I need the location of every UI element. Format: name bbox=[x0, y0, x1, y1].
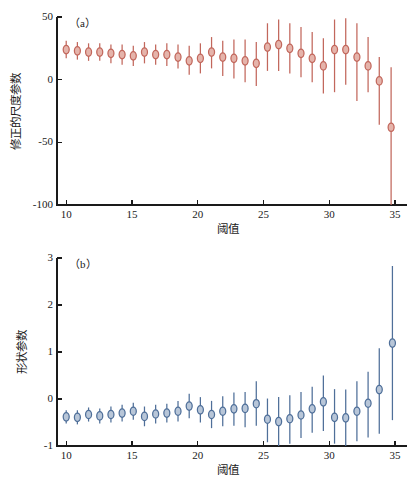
data-point bbox=[242, 40, 248, 83]
x-tick-label: 20 bbox=[192, 208, 204, 220]
data-marker bbox=[320, 62, 326, 70]
plot-area-panel-b: 3210-1101520253035阈值形状参数（b） bbox=[0, 241, 417, 482]
data-point bbox=[130, 403, 136, 420]
data-marker bbox=[74, 47, 80, 55]
data-marker bbox=[220, 53, 226, 61]
data-point bbox=[153, 45, 159, 65]
data-point bbox=[86, 407, 92, 421]
data-point bbox=[164, 43, 170, 66]
data-point bbox=[298, 392, 304, 438]
y-tick-label: 3 bbox=[48, 251, 54, 263]
data-marker bbox=[287, 415, 293, 423]
data-point bbox=[332, 20, 338, 93]
x-tick-label: 25 bbox=[258, 449, 270, 461]
data-point bbox=[141, 42, 147, 63]
data-marker bbox=[197, 406, 203, 414]
data-point bbox=[264, 399, 270, 443]
data-point bbox=[175, 401, 181, 422]
data-marker bbox=[141, 412, 147, 420]
data-marker bbox=[119, 50, 125, 58]
data-marker bbox=[186, 57, 192, 65]
data-marker bbox=[63, 45, 69, 53]
y-tick-label: 1 bbox=[48, 345, 54, 357]
data-point bbox=[343, 18, 349, 84]
axis-spines bbox=[57, 17, 407, 205]
data-marker bbox=[86, 410, 92, 418]
data-marker bbox=[332, 45, 338, 53]
x-tick-label: 25 bbox=[258, 208, 270, 220]
data-point bbox=[164, 404, 170, 423]
data-point bbox=[153, 405, 159, 424]
data-marker bbox=[209, 48, 215, 56]
data-marker bbox=[354, 53, 360, 61]
data-point bbox=[389, 266, 395, 420]
data-point bbox=[320, 376, 326, 431]
y-tick-label: -1 bbox=[44, 439, 53, 451]
data-marker bbox=[354, 407, 360, 415]
data-point bbox=[86, 43, 92, 61]
data-point bbox=[298, 27, 304, 77]
data-marker bbox=[242, 404, 248, 412]
data-marker bbox=[220, 407, 226, 415]
data-point bbox=[253, 42, 259, 86]
data-point bbox=[332, 389, 338, 444]
data-marker bbox=[74, 413, 80, 421]
y-tick-label: 50 bbox=[42, 10, 54, 22]
data-marker bbox=[108, 410, 114, 418]
data-point bbox=[74, 42, 80, 60]
data-marker bbox=[309, 405, 315, 413]
panel-tag: （a） bbox=[69, 17, 96, 29]
data-point bbox=[309, 387, 315, 433]
data-marker bbox=[231, 54, 237, 62]
data-marker bbox=[197, 54, 203, 62]
x-axis-title: 阈值 bbox=[217, 222, 240, 235]
data-point bbox=[264, 23, 270, 71]
x-tick-label: 15 bbox=[126, 208, 138, 220]
data-marker bbox=[186, 402, 192, 410]
data-point bbox=[242, 392, 248, 427]
data-point bbox=[119, 45, 125, 65]
data-point bbox=[354, 23, 360, 101]
data-marker bbox=[365, 399, 371, 407]
data-point bbox=[63, 410, 69, 423]
x-tick-label: 30 bbox=[324, 449, 336, 461]
figure-container: 500-50-100101520253035阈值修正的尺度参数（a） 3210-… bbox=[0, 0, 417, 482]
x-tick-label: 30 bbox=[324, 208, 336, 220]
data-marker bbox=[287, 44, 293, 52]
data-marker bbox=[175, 407, 181, 415]
y-tick-label: 0 bbox=[48, 392, 54, 404]
data-marker bbox=[309, 54, 315, 62]
data-point bbox=[343, 390, 349, 446]
data-point bbox=[141, 407, 147, 427]
data-point bbox=[276, 20, 282, 71]
data-marker bbox=[276, 417, 282, 425]
data-marker bbox=[130, 52, 136, 60]
data-marker bbox=[376, 385, 382, 393]
data-point bbox=[186, 46, 192, 75]
data-marker bbox=[253, 59, 259, 67]
data-marker bbox=[253, 400, 259, 408]
data-marker bbox=[376, 77, 382, 85]
data-point bbox=[209, 401, 215, 428]
data-point bbox=[376, 348, 382, 434]
data-point bbox=[320, 38, 326, 93]
x-tick-label: 10 bbox=[61, 208, 73, 220]
data-point bbox=[197, 397, 203, 422]
y-tick-label: -100 bbox=[33, 198, 54, 210]
data-point bbox=[253, 381, 259, 426]
y-axis-title: 修正的尺度参数 bbox=[9, 72, 22, 150]
y-tick-label: 2 bbox=[48, 298, 54, 310]
data-point bbox=[287, 23, 293, 73]
x-tick-label: 35 bbox=[390, 449, 402, 461]
data-point bbox=[209, 37, 215, 68]
data-marker bbox=[298, 411, 304, 419]
data-marker bbox=[388, 123, 394, 131]
data-marker bbox=[175, 53, 181, 61]
data-marker bbox=[264, 415, 270, 423]
data-marker bbox=[320, 398, 326, 406]
data-series-group bbox=[63, 266, 395, 446]
x-tick-label: 20 bbox=[192, 449, 204, 461]
data-point bbox=[130, 46, 136, 66]
y-tick-label: -50 bbox=[38, 135, 53, 147]
data-point bbox=[119, 405, 125, 422]
